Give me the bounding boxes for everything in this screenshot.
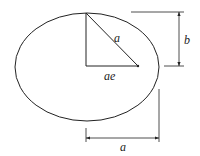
semi-minor-label: b <box>184 33 190 47</box>
focus-point <box>137 65 139 67</box>
hypotenuse-label: a <box>114 31 120 45</box>
hypotenuse-line <box>86 13 138 66</box>
focal-distance-label: ae <box>104 69 116 83</box>
semi-major-label: a <box>120 140 126 154</box>
ellipse-diagram: a ae b a <box>0 0 200 156</box>
